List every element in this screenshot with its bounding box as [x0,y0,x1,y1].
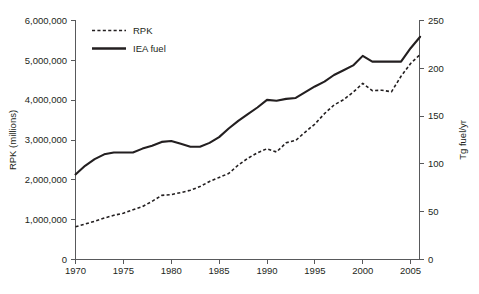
left-tick-label: 5,000,000 [25,55,67,66]
left-tick-label: 4,000,000 [25,94,67,105]
right-axis-ticks [420,21,425,260]
x-tick-label: 2005 [400,265,421,276]
right-tick-label: 0 [428,254,433,265]
x-tick-label: 1995 [304,265,325,276]
left-tick-label: 6,000,000 [25,15,67,26]
x-axis-tick-labels: 1970 1975 1980 1985 1990 1995 2000 2005 [65,265,421,276]
left-axis-ticks [71,21,76,260]
legend-label-iea-fuel: IEA fuel [133,43,166,54]
legend: RPK IEA fuel [92,25,166,54]
x-tick-label: 1985 [209,265,230,276]
right-tick-label: 150 [428,110,444,121]
left-tick-label: 0 [62,254,67,265]
series-line-rpk [76,54,421,226]
right-axis-title: Tg fuel/yr [457,120,468,160]
legend-label-rpk: RPK [133,25,153,36]
series-line-iea-fuel [76,37,421,175]
left-axis-title: RPK (millions) [7,110,18,170]
left-tick-label: 1,000,000 [25,214,67,225]
x-tick-label: 1980 [161,265,182,276]
right-tick-label: 50 [428,206,439,217]
right-tick-label: 200 [428,63,444,74]
x-axis-ticks [76,260,411,265]
x-tick-label: 1990 [256,265,277,276]
right-tick-label: 250 [428,15,444,26]
right-tick-label: 100 [428,158,444,169]
chart-container: 6,000,000 5,000,000 4,000,000 3,000,000 … [0,0,479,294]
left-tick-label: 2,000,000 [25,174,67,185]
right-axis-tick-labels: 250 200 150 100 50 0 [428,15,444,265]
line-chart: 6,000,000 5,000,000 4,000,000 3,000,000 … [0,0,479,294]
x-tick-label: 1970 [65,265,86,276]
x-tick-label: 2000 [352,265,373,276]
x-tick-label: 1975 [113,265,134,276]
left-tick-label: 3,000,000 [25,134,67,145]
left-axis-tick-labels: 6,000,000 5,000,000 4,000,000 3,000,000 … [25,15,67,265]
